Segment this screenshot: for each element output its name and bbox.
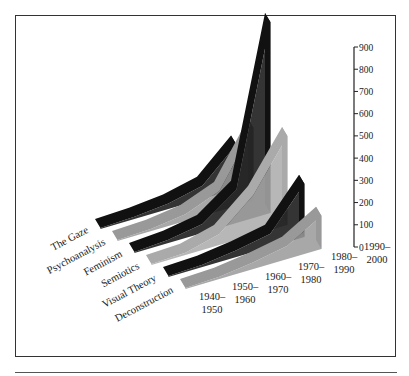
y-tick-label: 600 [359, 109, 374, 119]
y-tick-label: 300 [359, 176, 374, 186]
y-tick-label: 0 [359, 243, 364, 253]
category-label: 1970–1980 [298, 261, 325, 285]
y-tick-label: 900 [359, 43, 374, 53]
y-tick-label: 200 [359, 198, 374, 208]
y-tick-label: 500 [359, 131, 374, 141]
category-label: 1950–1960 [232, 281, 259, 305]
category-label: 1980–1990 [331, 251, 358, 275]
y-tick-label: 700 [359, 87, 374, 97]
category-label: 1990–2000 [364, 241, 391, 265]
ribbon-chart: The GazePsychoanalysisFeminismSemioticsV… [0, 0, 409, 376]
category-label: 1960–1970 [265, 271, 292, 295]
category-label: 1940–1950 [199, 291, 226, 315]
y-tick-label: 100 [359, 220, 374, 230]
y-tick-label: 800 [359, 65, 374, 75]
y-tick-label: 400 [359, 154, 374, 164]
